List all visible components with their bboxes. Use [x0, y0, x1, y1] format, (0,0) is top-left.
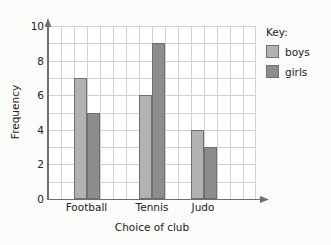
x-tick-judo: Judo — [173, 201, 233, 213]
legend-swatch-boys — [266, 45, 279, 58]
y-tick-0: 0 — [37, 194, 44, 204]
y-tick-6: 6 — [37, 90, 44, 100]
legend-item-boys: boys — [266, 45, 328, 58]
bar-chart: 10 8 6 4 2 0 Frequency Football Tennis J… — [0, 0, 331, 245]
legend-label-girls: girls — [285, 66, 307, 78]
y-axis-ticks: 10 8 6 4 2 0 — [20, 26, 44, 199]
x-axis-title: Choice of club — [48, 221, 256, 233]
y-tick-2: 2 — [37, 159, 44, 169]
legend-item-girls: girls — [266, 65, 328, 78]
legend-title: Key: — [266, 26, 328, 38]
y-axis-title: Frequency — [4, 58, 18, 168]
x-tick-football: Football — [54, 201, 119, 213]
x-axis-ticks: Football Tennis Judo — [48, 201, 256, 217]
legend-label-boys: boys — [285, 46, 310, 58]
legend-swatch-girls — [266, 65, 279, 78]
y-tick-4: 4 — [37, 125, 44, 135]
legend: Key: boys girls — [266, 26, 328, 85]
x-axis-arrowhead — [260, 196, 269, 203]
y-axis-title-text: Frequency — [9, 57, 21, 167]
y-axis-arrowhead — [45, 18, 52, 27]
y-tick-10: 10 — [31, 21, 44, 31]
y-tick-8: 8 — [37, 56, 44, 66]
